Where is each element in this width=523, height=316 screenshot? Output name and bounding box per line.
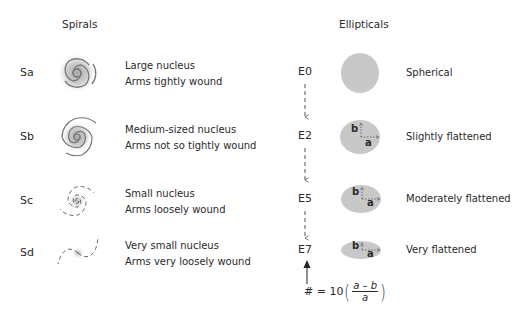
- elliptical-desc-e7: Very flattened: [406, 242, 477, 258]
- elliptical-e0-shape: [341, 53, 379, 93]
- axis-label-b: b: [351, 123, 358, 134]
- spiral-galaxy-very-loose-icon: [58, 238, 98, 264]
- spiral-desc-line: Arms not so tightly wound: [125, 138, 256, 154]
- formula-open-paren: (: [345, 282, 350, 302]
- elliptical-desc-e5: Moderately flattened: [406, 191, 511, 207]
- spiral-desc-line: Small nucleus: [125, 186, 225, 202]
- formula-lhs: # = 10: [304, 285, 343, 298]
- elliptical-desc-e0: Spherical: [406, 65, 452, 81]
- axis-label-a: a: [367, 197, 374, 208]
- spiral-desc-line: Large nucleus: [125, 58, 222, 74]
- spiral-desc-line: Arms loosely wound: [125, 202, 225, 218]
- spiral-desc-line: Arms tightly wound: [125, 74, 222, 90]
- formula-fraction: a – b a: [352, 280, 378, 303]
- spiral-class-sd: Sd: [20, 246, 34, 259]
- spiral-class-sa: Sa: [20, 66, 34, 79]
- elliptical-e7-shape: [341, 241, 381, 259]
- spiral-desc-line: Very small nucleus: [125, 238, 251, 254]
- spiral-desc-sc: Small nucleus Arms loosely wound: [125, 186, 225, 217]
- spiral-desc-sa: Large nucleus Arms tightly wound: [125, 58, 222, 89]
- elliptical-class-e2: E2: [298, 129, 312, 142]
- elliptical-desc-e2: Slightly flattened: [406, 129, 492, 145]
- axis-label-a: a: [367, 248, 374, 259]
- axis-label-b: b: [352, 186, 359, 197]
- elliptical-class-e7: E7: [298, 243, 312, 256]
- spiral-class-sc: Sc: [20, 194, 33, 207]
- spiral-class-sb: Sb: [20, 130, 34, 143]
- spiral-galaxy-medium-icon: [61, 118, 96, 156]
- elliptical-class-e0: E0: [298, 65, 312, 78]
- elliptical-class-e5: E5: [298, 192, 312, 205]
- formula-numerator: a – b: [352, 280, 378, 292]
- formula-denominator: a: [362, 292, 368, 303]
- spiral-desc-sd: Very small nucleus Arms very loosely wou…: [125, 238, 251, 269]
- flattening-formula: # = 10 ( a – b a ): [304, 280, 387, 303]
- spiral-desc-line: Arms very loosely wound: [125, 254, 251, 270]
- elliptical-e5-shape: [341, 185, 381, 213]
- spiral-desc-sb: Medium-sized nucleus Arms not so tightly…: [125, 122, 256, 153]
- spiral-galaxy-loose-icon: [60, 187, 94, 216]
- spiral-desc-line: Medium-sized nucleus: [125, 122, 256, 138]
- formula-close-paren: ): [380, 282, 385, 302]
- elliptical-e2-shape: [340, 120, 380, 154]
- axis-label-b: b: [352, 240, 359, 251]
- spiral-galaxy-tight-icon: [57, 53, 97, 93]
- axis-label-a: a: [365, 137, 372, 148]
- diagram-graphics: [0, 0, 523, 316]
